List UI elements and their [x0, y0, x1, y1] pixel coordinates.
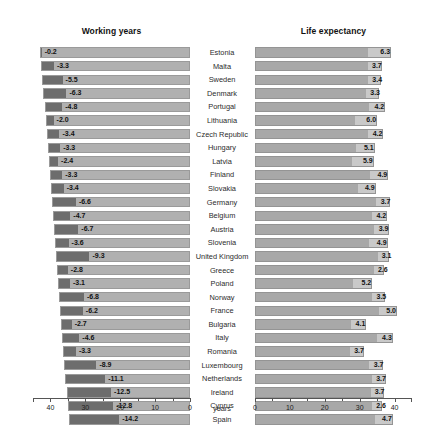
working-years-value-label: -11.1 [106, 374, 124, 384]
panel-title-life-expectancy: Life expectancy [255, 26, 412, 36]
axis-end-cap [411, 398, 412, 402]
working-years-value-label: -6.3 [67, 88, 81, 98]
life-expectancy-value-label: 6.3 [370, 47, 392, 57]
panel-title-working-years: Working years [33, 26, 190, 36]
working-years-track: -5.5 [33, 75, 190, 85]
working-years-track: -0.2 [33, 47, 190, 57]
working-years-change-segment [51, 171, 63, 179]
working-years-value-label: -2.4 [59, 156, 73, 166]
working-years-track: -3.4 [33, 129, 190, 139]
chart-row: -3.3Finland4.9 [0, 168, 426, 182]
working-years-change-segment [63, 334, 79, 342]
country-label: Romania [190, 345, 254, 359]
working-years-bar [40, 47, 190, 57]
chart-row: -9.3United Kingdom3.1 [0, 250, 426, 264]
life-expectancy-bar [255, 346, 364, 356]
working-years-value-label: -3.3 [63, 170, 77, 180]
working-years-value-label: -3.3 [77, 346, 91, 356]
country-label: Czech Republic [190, 128, 254, 142]
working-years-change-segment [44, 89, 66, 97]
chart-row: -4.6Italy4.3 [0, 331, 426, 345]
life-expectancy-track: 4.9 [255, 183, 412, 193]
life-expectancy-track: 6.3 [255, 47, 412, 57]
country-label: Latvia [190, 155, 254, 169]
life-expectancy-bar [255, 170, 388, 180]
working-years-track: -3.3 [33, 346, 190, 356]
life-expectancy-bar [255, 61, 382, 71]
working-years-bar [43, 88, 190, 98]
life-expectancy-bar [255, 143, 375, 153]
working-years-track: -2.0 [33, 115, 190, 125]
axis-tick-label: 20 [315, 404, 335, 411]
life-expectancy-bar [255, 333, 393, 343]
axis-line [255, 398, 412, 399]
life-expectancy-bar [255, 251, 389, 261]
working-years-track: -4.8 [33, 102, 190, 112]
chart-row: -2.0Lithuania6.0 [0, 114, 426, 128]
country-label: Sweden [190, 73, 254, 87]
life-expectancy-value-label: 3.7 [371, 360, 385, 370]
life-expectancy-bar [255, 102, 385, 112]
axis-tick-minor [68, 398, 69, 401]
working-years-change-segment [50, 157, 58, 165]
working-years-track: -3.3 [33, 61, 190, 71]
life-expectancy-value-label: 4.2 [370, 129, 385, 139]
life-expectancy-bar [255, 319, 366, 329]
working-years-track: -3.6 [33, 238, 190, 248]
country-label: Slovakia [190, 182, 254, 196]
chart-row: -4.8Portugal4.2 [0, 100, 426, 114]
country-label: Ireland [190, 386, 254, 400]
chart-row: -6.2France5.0 [0, 304, 426, 318]
chart-row: -6.3Denmark3.3 [0, 87, 426, 101]
axis-end-cap [33, 398, 34, 402]
working-years-value-label: -2.8 [69, 265, 83, 275]
diverging-bar-chart: Working years Life expectancy -0.2Estoni… [0, 0, 426, 430]
life-expectancy-value-label: 4.3 [379, 333, 394, 343]
working-years-change-segment [46, 103, 63, 111]
life-expectancy-track: 3.5 [255, 292, 412, 302]
life-expectancy-value-label: 4.9 [360, 183, 377, 193]
working-years-change-segment [68, 388, 112, 396]
working-years-bar [60, 306, 190, 316]
country-label: Bulgaria [190, 318, 254, 332]
working-years-bar [59, 292, 190, 302]
working-years-track: -3.3 [33, 170, 190, 180]
working-years-track: -6.6 [33, 197, 190, 207]
working-years-change-segment [55, 225, 78, 233]
country-label: Italy [190, 331, 254, 345]
country-label: United Kingdom [190, 250, 254, 264]
life-expectancy-value-label: 4.1 [353, 319, 367, 329]
life-expectancy-bar [255, 183, 376, 193]
working-years-change-segment [58, 266, 68, 274]
life-expectancy-value-label: 3.9 [376, 224, 390, 234]
life-expectancy-value-label: 5.0 [381, 306, 398, 316]
axis-tick [155, 398, 156, 402]
working-years-track: -6.8 [33, 292, 190, 302]
working-years-change-segment [43, 76, 62, 84]
life-expectancy-value-label: 3.1 [380, 251, 394, 261]
working-years-change-segment [49, 144, 61, 152]
x-axis-working-years: 403020100 [33, 398, 190, 418]
axis-tick [255, 398, 256, 402]
working-years-change-segment [54, 212, 70, 220]
chart-row: -6.8Norway3.5 [0, 291, 426, 305]
working-years-bar [52, 197, 190, 207]
working-years-value-label: -6.7 [79, 224, 93, 234]
life-expectancy-value-label: 3.7 [373, 387, 387, 397]
life-expectancy-track: 4.9 [255, 238, 412, 248]
country-label: Norway [190, 291, 254, 305]
chart-row: -3.6Slovenia4.9 [0, 236, 426, 250]
working-years-change-segment [53, 198, 76, 206]
country-label: Estonia [190, 46, 254, 60]
axis-tick-minor [377, 398, 378, 401]
working-years-track: -8.9 [33, 360, 190, 370]
axis-tick-label: 10 [145, 404, 165, 411]
working-years-track: -4.7 [33, 211, 190, 221]
working-years-track: -3.1 [33, 278, 190, 288]
country-label: Greece [190, 264, 254, 278]
working-years-track: -3.3 [33, 143, 190, 153]
working-years-value-label: -5.5 [64, 75, 78, 85]
life-expectancy-value-label: 3.4 [370, 75, 384, 85]
life-expectancy-bar [255, 374, 386, 384]
chart-row: -6.6Germany3.7 [0, 196, 426, 210]
